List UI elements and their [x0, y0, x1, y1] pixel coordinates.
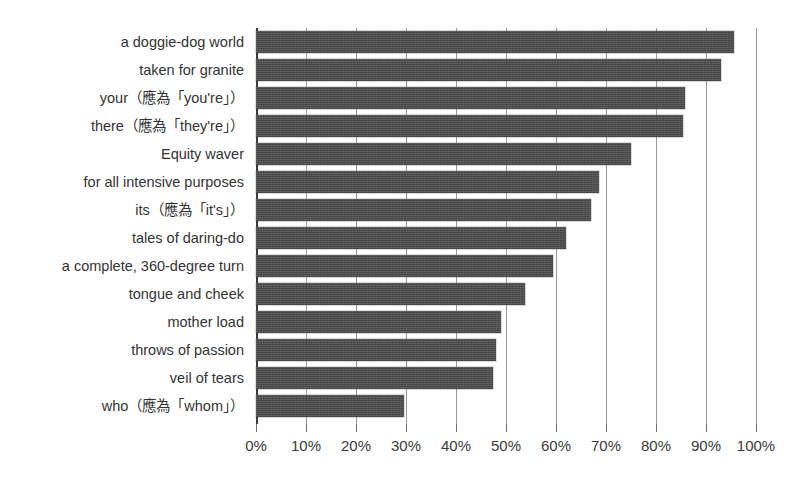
category-label: for all intensive purposes [84, 168, 244, 196]
x-axis-tick-label: 60% [541, 436, 571, 456]
bar-row[interactable] [256, 28, 756, 56]
bar[interactable] [256, 255, 553, 277]
x-axis-tick [406, 424, 407, 432]
bar-row[interactable] [256, 224, 756, 252]
x-axis-tick [256, 424, 257, 432]
bar[interactable] [256, 87, 685, 109]
bar[interactable] [256, 311, 501, 333]
x-axis-tick-label: 100% [737, 436, 775, 456]
x-axis-tick-label: 20% [341, 436, 371, 456]
x-axis-tick-label: 0% [245, 436, 267, 456]
category-label: throws of passion [131, 336, 244, 364]
category-label: veil of tears [170, 364, 244, 392]
x-axis-ticks [256, 424, 756, 432]
bar[interactable] [256, 339, 496, 361]
x-axis-tick [306, 424, 307, 432]
category-label: tales of daring-do [132, 224, 244, 252]
category-label: who（應為「whom」） [102, 392, 244, 420]
category-label: taken for granite [139, 56, 244, 84]
x-axis-tick [606, 424, 607, 432]
bar[interactable] [256, 227, 566, 249]
bar-chart: a doggie-dog worldtaken for graniteyour（… [0, 0, 808, 497]
x-axis-tick-label: 80% [641, 436, 671, 456]
x-axis-tick [456, 424, 457, 432]
bar[interactable] [256, 115, 683, 137]
bar-row[interactable] [256, 252, 756, 280]
bar-row[interactable] [256, 140, 756, 168]
x-axis-tick-label: 30% [391, 436, 421, 456]
category-label: Equity waver [161, 140, 244, 168]
plot-area [256, 28, 756, 424]
bar-row[interactable] [256, 364, 756, 392]
bar[interactable] [256, 143, 631, 165]
x-axis-tick [656, 424, 657, 432]
bar-row[interactable] [256, 392, 756, 420]
category-label: a doggie-dog world [121, 28, 244, 56]
bar[interactable] [256, 395, 404, 417]
bar-row[interactable] [256, 84, 756, 112]
category-label: its（應為「it's」） [135, 196, 244, 224]
bar-row[interactable] [256, 336, 756, 364]
bar[interactable] [256, 59, 721, 81]
bar-row[interactable] [256, 308, 756, 336]
category-label-column: a doggie-dog worldtaken for graniteyour（… [6, 28, 250, 424]
x-axis-tick-labels: 0%10%20%30%40%50%60%70%80%90%100% [256, 436, 756, 460]
x-axis-tick-label: 70% [591, 436, 621, 456]
x-axis-tick-label: 10% [291, 436, 321, 456]
category-label: there（應為「they're」） [91, 112, 244, 140]
x-axis-tick-label: 40% [441, 436, 471, 456]
x-axis-tick [556, 424, 557, 432]
x-axis-tick [356, 424, 357, 432]
x-axis-tick [506, 424, 507, 432]
bar-row[interactable] [256, 112, 756, 140]
bar-row[interactable] [256, 168, 756, 196]
bar[interactable] [256, 199, 591, 221]
x-axis-tick-label: 50% [491, 436, 521, 456]
x-axis-tick [756, 424, 757, 432]
bar[interactable] [256, 367, 493, 389]
bar-row[interactable] [256, 196, 756, 224]
x-axis-tick [706, 424, 707, 432]
category-label: mother load [167, 308, 244, 336]
bar-row[interactable] [256, 56, 756, 84]
chart-title [0, 2, 808, 16]
bar[interactable] [256, 31, 734, 53]
category-label: a complete, 360-degree turn [62, 252, 244, 280]
gridline [756, 28, 757, 424]
bar[interactable] [256, 283, 525, 305]
category-label: tongue and cheek [129, 280, 244, 308]
x-axis-tick-label: 90% [691, 436, 721, 456]
bar-row[interactable] [256, 280, 756, 308]
bar[interactable] [256, 171, 599, 193]
category-label: your（應為「you're」） [100, 84, 244, 112]
